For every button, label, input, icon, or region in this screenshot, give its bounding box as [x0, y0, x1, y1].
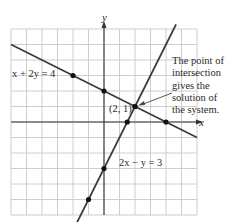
data-point: [86, 197, 91, 202]
data-point: [125, 119, 130, 124]
annotation-line: solution of: [172, 92, 218, 103]
data-point: [70, 73, 75, 78]
intersection-label: (2, 1): [109, 103, 132, 115]
x-axis-label: x: [198, 116, 204, 128]
annotation-arrow: [142, 93, 172, 105]
labels: y x x + 2y = 4 2x − y = 3 (2, 1) The poi…: [12, 11, 224, 168]
annotation-line: gives the: [172, 80, 210, 91]
data-point: [132, 104, 137, 109]
system-of-equations-graph: y x x + 2y = 4 2x − y = 3 (2, 1) The poi…: [0, 0, 233, 222]
annotation-line: the system.: [172, 104, 219, 115]
data-point: [101, 166, 106, 171]
annotation-line: intersection: [172, 67, 222, 78]
axes: [11, 21, 203, 215]
data-point: [101, 88, 106, 93]
annotation-line: The point of: [172, 55, 224, 66]
series-label-2: 2x − y = 3: [119, 157, 162, 168]
arrow-head-icon: [138, 101, 145, 106]
y-axis-label: y: [101, 11, 107, 23]
data-point: [163, 119, 168, 124]
series-label-1: x + 2y = 4: [12, 68, 56, 79]
